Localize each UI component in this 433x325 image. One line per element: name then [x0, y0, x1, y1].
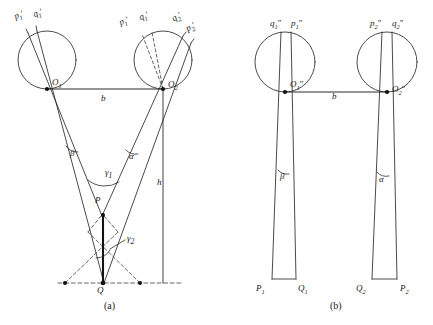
angle-beta-a: β [70, 148, 74, 158]
label-h-a: h [157, 178, 162, 187]
label-q2-dprime-right: q2″ [392, 19, 403, 30]
node-ground-left [63, 281, 67, 285]
angle-beta-b: β [280, 171, 284, 181]
label-P: P [95, 196, 101, 205]
ray-O1b-to-Q1 [291, 32, 296, 279]
label-Q1-b: Q1 [298, 284, 308, 295]
ray-O2b-to-P2 [392, 32, 397, 279]
tick-p2-prime-right [191, 39, 194, 43]
label-O2-dprime: O2″ [392, 85, 405, 96]
label-b-b: b [332, 92, 337, 101]
label-q1-dprime-left: q1″ [270, 19, 281, 30]
ray-O1-to-P [28, 33, 102, 216]
diagram-canvas [0, 0, 433, 325]
ray-O2-to-P [102, 36, 183, 216]
dashed-left-to-apex [104, 216, 118, 232]
angle-alpha-b: α [379, 174, 384, 184]
label-Q2-b: Q2 [356, 284, 366, 295]
dashed-Q-left-to-P [65, 232, 118, 283]
label-O1-dprime: O1″ [290, 80, 303, 91]
angle-gamma2-a: γ2 [127, 233, 134, 246]
label-O1: O1 [52, 78, 62, 89]
dashed-ray-q1-prime-right [152, 32, 163, 89]
ray-O2-to-Q [104, 43, 191, 283]
node-ground-right [138, 281, 142, 285]
node-O2-dprime [385, 90, 389, 94]
figure-root: p1′ q1′ p1′ q1′ q2′ p2′ O1 O2 P Q b h β … [0, 0, 433, 325]
tick-q2-prime-right [183, 32, 186, 36]
label-b-a: b [101, 94, 106, 103]
label-P2-b: P2 [400, 284, 409, 295]
ray-O2b-to-Q2 [372, 32, 382, 279]
node-O1-dprime [283, 90, 287, 94]
dashed-ray-p1-prime-right [142, 34, 163, 89]
node-P [101, 213, 105, 217]
caption-a: (a) [104, 300, 115, 311]
angle-arc-gamma1-a [88, 180, 119, 186]
label-p1-dprime-left: p1″ [291, 19, 302, 30]
label-p2-dprime-right: p2″ [370, 19, 381, 30]
caption-b: (b) [330, 300, 342, 311]
circle-left-b [255, 32, 315, 92]
dashed-right-to-apex [88, 216, 101, 232]
ray-O1b-to-P1 [272, 32, 281, 279]
angle-gamma1-a: γ1 [105, 167, 112, 180]
node-O1 [45, 87, 49, 91]
tick-q1-prime-left [36, 26, 37, 31]
angle-alpha-a: α [129, 151, 134, 161]
label-O2: O2 [168, 80, 178, 91]
leader-gamma2-a [110, 240, 125, 249]
label-Q: Q [97, 286, 104, 295]
node-O2 [161, 87, 165, 91]
label-P1-b: P1 [256, 284, 265, 295]
circle-right-b [357, 32, 417, 92]
tick-p1-prime-left [26, 29, 28, 33]
